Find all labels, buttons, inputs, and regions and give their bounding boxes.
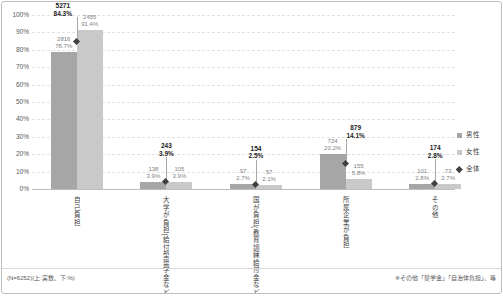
y-axis-tick-label: 30%	[3, 133, 29, 141]
bar-male	[140, 182, 166, 189]
square-marker-icon	[457, 150, 462, 155]
total-leader-line	[346, 139, 347, 161]
total-value-label: 87914.1%	[331, 124, 381, 139]
category-label: その他	[430, 196, 438, 268]
y-axis-tick-label: 60%	[3, 81, 29, 89]
legend-label: 全体	[466, 165, 480, 173]
male-value-label: 72420.2%	[311, 138, 355, 152]
bar-female	[77, 30, 103, 189]
diamond-marker-icon	[456, 166, 462, 172]
total-leader-line	[77, 17, 78, 39]
chart-frame: 0%10%20%30%40%50%60%70%80%90%100%281678.…	[1, 1, 502, 294]
y-axis-tick-label: 0%	[3, 185, 29, 193]
footer-divider	[2, 268, 501, 269]
total-value-label: 1742.8%	[410, 144, 460, 159]
total-value-label: 1542.5%	[231, 145, 281, 160]
total-leader-line	[435, 159, 436, 181]
y-axis-tick-label: 90%	[3, 28, 29, 36]
y-axis-tick-label: 50%	[3, 98, 29, 106]
legend-item-女性: 女性	[457, 148, 501, 156]
y-axis-tick-label: 70%	[3, 63, 29, 71]
category-label: 自己負担	[72, 196, 80, 268]
bar-male	[409, 184, 435, 189]
footnote-left: (N=6252)(上:実数、下:%)	[7, 274, 75, 282]
bar-female	[166, 182, 192, 189]
total-leader-line	[166, 157, 167, 179]
male-value-label: 281678.7%	[42, 36, 86, 50]
y-axis-tick-label: 10%	[3, 168, 29, 176]
y-axis-tick-label: 100%	[3, 11, 29, 19]
y-axis-tick-label: 20%	[3, 150, 29, 158]
legend-item-全体: 全体	[457, 165, 501, 173]
total-value-label: 2433.9%	[141, 142, 191, 157]
square-marker-icon	[457, 133, 462, 138]
legend-label: 女性	[466, 148, 480, 156]
bar-female	[435, 184, 461, 189]
plot-area: 0%10%20%30%40%50%60%70%80%90%100%281678.…	[2, 2, 501, 293]
bar-male	[51, 52, 77, 189]
category-label: 国が負担(教育訓練給付金など)	[251, 196, 259, 268]
total-leader-line	[256, 160, 257, 182]
bar-female	[346, 179, 372, 189]
category-label: 大学が負担(給付型奨学金など)	[161, 196, 169, 268]
category-label: 所属企業が負担	[341, 196, 349, 268]
y-axis-tick-label: 80%	[3, 46, 29, 54]
total-value-label: 527184.3%	[38, 2, 88, 17]
x-axis-baseline	[32, 189, 455, 190]
legend: 男性女性全体	[457, 131, 501, 182]
y-axis-tick-label: 40%	[3, 115, 29, 123]
footnote-right: ※その他「奨学金」「自治体負担」、等	[395, 274, 496, 282]
bar-female	[256, 185, 282, 189]
legend-label: 男性	[466, 131, 480, 139]
legend-item-男性: 男性	[457, 131, 501, 139]
